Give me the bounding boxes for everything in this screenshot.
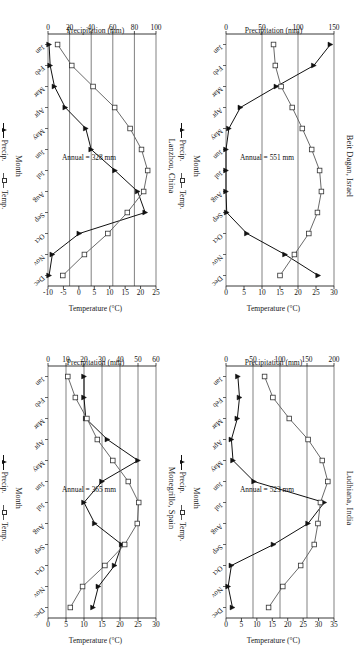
- precip-point: [274, 84, 279, 89]
- temp-point: [317, 168, 322, 173]
- temp-point: [298, 563, 303, 568]
- y-tick-left: 40: [116, 355, 124, 364]
- temp-point: [126, 479, 131, 484]
- legend-label-temp: Temp.: [0, 522, 9, 541]
- y-tick-left: 60: [109, 23, 117, 32]
- y-tick-right: 10: [253, 620, 261, 629]
- temp-point: [66, 374, 71, 379]
- temp-point: [80, 584, 85, 589]
- plot-area: 020406080100-10-50510152025JanFebMarAprM…: [48, 34, 156, 286]
- panel-ludhiana: Ludhiana, India Precipitation (mm) Tempe…: [178, 332, 356, 664]
- temp-point: [145, 168, 150, 173]
- x-tick-month: Jan: [34, 375, 47, 388]
- panel-title: Ludhiana, India: [345, 332, 354, 664]
- x-tick-month: Jul: [213, 501, 225, 513]
- x-tick-month: May: [31, 127, 46, 142]
- y-tick-right: 5: [64, 620, 68, 629]
- x-tick-month: May: [209, 127, 224, 142]
- y-tick-right: 15: [276, 288, 284, 297]
- legend-item-temp: Temp.: [178, 505, 187, 541]
- legend: Precip. Temp.: [0, 0, 9, 332]
- temp-point: [111, 458, 116, 463]
- temp-point: [307, 231, 312, 236]
- legend-item-precip: Precip.: [178, 123, 187, 161]
- x-tick-month: Dec: [210, 274, 224, 288]
- y-tick-left: 100: [292, 23, 303, 32]
- y-tick-left: 50: [249, 355, 257, 364]
- temp-point: [318, 500, 323, 505]
- legend-label-temp: Temp.: [178, 522, 187, 541]
- x-tick-month: Jul: [35, 169, 47, 181]
- temp-point: [91, 84, 96, 89]
- x-tick-month: Apr: [32, 438, 46, 452]
- panel-lanzhou: Lanzhou, China Precipitation (mm) Temper…: [0, 0, 178, 332]
- temp-point: [279, 84, 284, 89]
- y-tick-left: 40: [88, 23, 96, 32]
- y-tick-right: 30: [330, 288, 338, 297]
- x-tick-month: Aug: [32, 522, 47, 537]
- legend: Precip. Temp.: [0, 332, 9, 664]
- precip-point: [252, 479, 257, 484]
- legend-item-temp: Temp.: [178, 173, 187, 209]
- precip-line-icon: [3, 455, 4, 470]
- x-tick-month: Aug: [210, 190, 225, 205]
- y-tick-right: -10: [43, 288, 53, 297]
- temp-point: [125, 210, 130, 215]
- temp-point: [326, 479, 331, 484]
- annual-total-annotation: Annual = 551 mm: [240, 153, 294, 162]
- y-tick-right: 25: [299, 620, 307, 629]
- x-tick-month: Nov: [32, 253, 47, 268]
- temp-point: [85, 416, 90, 421]
- plot-area: 050100150051015202530JanFebMarAprMayJunJ…: [226, 34, 334, 286]
- x-tick-month: Nov: [210, 585, 225, 600]
- x-tick-month: Feb: [211, 396, 225, 410]
- x-tick-month: May: [31, 459, 46, 474]
- legend-item-temp: Temp.: [0, 173, 9, 209]
- panel-beit-dagan: Beit Dagan, Israel Precipitation (mm) Te…: [178, 0, 356, 332]
- temp-point: [309, 147, 314, 152]
- y-tick-left: 0: [46, 23, 50, 32]
- y-tick-left: 20: [66, 23, 74, 32]
- temp-point: [61, 273, 66, 278]
- y-axis-label-temp: Temperature (°C): [36, 304, 156, 313]
- x-axis-label: Month: [14, 0, 23, 332]
- precip-line-icon: [181, 123, 182, 138]
- legend: Precip. Temp.: [178, 0, 187, 332]
- precip-point: [328, 42, 333, 47]
- temp-point: [306, 437, 311, 442]
- temp-point: [68, 605, 73, 610]
- legend-label-precip: Precip.: [0, 472, 9, 493]
- x-tick-month: Aug: [210, 522, 225, 537]
- temp-point: [82, 252, 87, 257]
- precip-point: [135, 189, 140, 194]
- y-tick-left: 30: [98, 355, 106, 364]
- y-tick-right: 5: [92, 288, 96, 297]
- y-tick-right: 0: [224, 620, 228, 629]
- y-tick-left: 50: [134, 355, 142, 364]
- y-tick-left: 60: [152, 355, 160, 364]
- temp-point: [103, 563, 108, 568]
- annual-total-annotation: Annual = 328 mm: [62, 153, 116, 162]
- y-tick-right: 15: [98, 620, 106, 629]
- x-tick-month: Jun: [33, 148, 46, 161]
- x-tick-month: Jun: [211, 148, 224, 161]
- x-axis-label: Month: [192, 332, 201, 664]
- temp-point: [319, 189, 324, 194]
- y-tick-right: 35: [330, 620, 338, 629]
- y-tick-left: 80: [131, 23, 139, 32]
- temp-point: [292, 252, 297, 257]
- temp-point: [266, 605, 271, 610]
- panel-title: Monegrillo, Spain: [167, 332, 176, 664]
- temp-point: [112, 105, 117, 110]
- annual-total-annotation: Annual = 365 mm: [62, 485, 116, 494]
- panel-title: Lanzhou, China: [167, 0, 176, 332]
- y-tick-right: 20: [294, 288, 302, 297]
- temp-point: [320, 458, 325, 463]
- y-tick-left: 50: [258, 23, 266, 32]
- precip-point: [283, 252, 288, 257]
- y-tick-left: 20: [80, 355, 88, 364]
- x-tick-month: Dec: [32, 606, 46, 620]
- y-tick-left: 0: [224, 23, 228, 32]
- x-tick-month: Jun: [211, 480, 224, 493]
- y-tick-right: 30: [315, 620, 323, 629]
